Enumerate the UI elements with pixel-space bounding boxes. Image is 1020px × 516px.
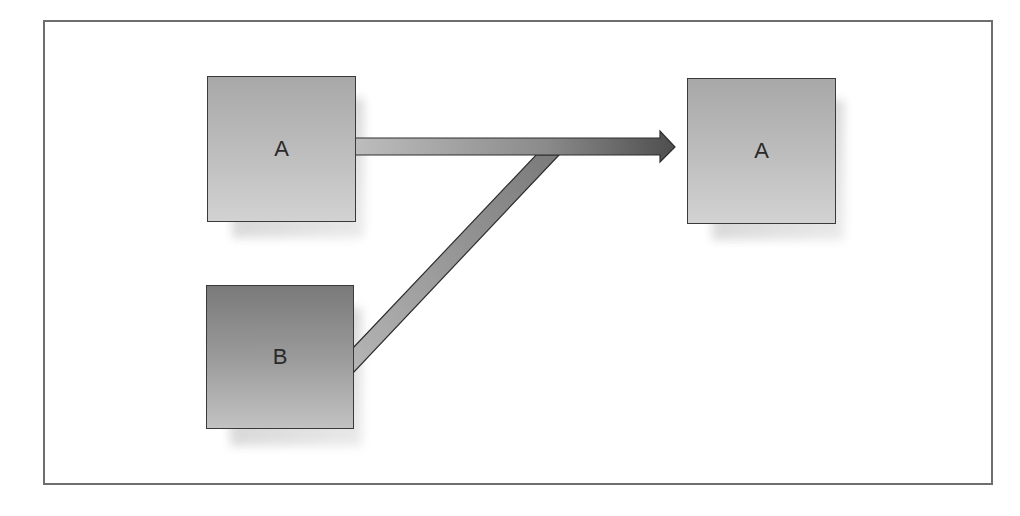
box-label: B bbox=[273, 344, 288, 370]
diagonal-arrow-b-to-a bbox=[353, 155, 559, 373]
source-box-b: B bbox=[206, 285, 354, 429]
target-box-a: A bbox=[687, 78, 836, 224]
box-label: A bbox=[754, 138, 769, 164]
connector-arrows bbox=[0, 0, 1020, 516]
source-box-a: A bbox=[207, 76, 356, 222]
horizontal-arrow-a-to-a bbox=[355, 131, 675, 162]
box-label: A bbox=[274, 136, 289, 162]
